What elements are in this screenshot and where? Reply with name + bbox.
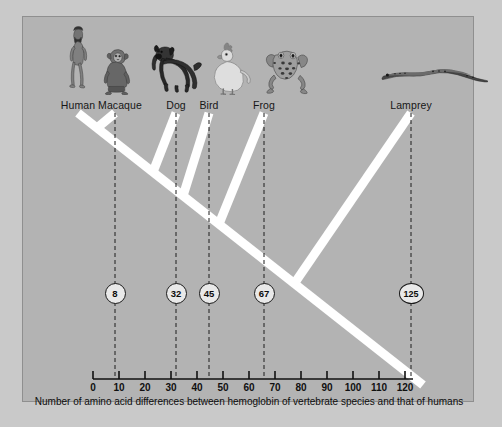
- axis-ticks: [93, 371, 405, 379]
- value-badge-bird: 45: [199, 283, 220, 304]
- figure-stage: Human Macaque Dog Bird Frog Lamprey: [23, 17, 475, 403]
- axis-tick-label: 110: [371, 382, 387, 393]
- axis-tick-label: 30: [165, 382, 176, 393]
- value-badge-dog: 32: [166, 283, 187, 304]
- axis-tick-label: 50: [217, 382, 228, 393]
- value-badge-frog: 67: [254, 283, 275, 304]
- branch-lamprey: [294, 113, 411, 284]
- value-badge-lamprey: 125: [399, 283, 424, 304]
- axis-tick-label: 90: [321, 382, 332, 393]
- branch-dog: [153, 113, 176, 172]
- axis-tick-label: 20: [139, 382, 150, 393]
- branch-macaque: [97, 113, 115, 128]
- axis-tick-label: 100: [345, 382, 362, 393]
- branch-frog: [219, 113, 264, 224]
- axis-tick-label: 0: [90, 382, 96, 393]
- axis-caption: Number of amino acid differences between…: [27, 396, 471, 407]
- axis-tick-label: 10: [113, 382, 124, 393]
- cladogram-branches: [23, 17, 475, 403]
- axis-tick-label: 120: [397, 382, 414, 393]
- axis-tick-label: 60: [243, 382, 254, 393]
- axis-tick-label: 70: [269, 382, 280, 393]
- axis-tick-label: 80: [295, 382, 306, 393]
- axis-tick-label: 40: [191, 382, 202, 393]
- value-badge-macaque: 8: [105, 283, 126, 304]
- cladogram-figure: Human Macaque Dog Bird Frog Lamprey: [22, 16, 474, 402]
- branch-bird: [183, 113, 209, 196]
